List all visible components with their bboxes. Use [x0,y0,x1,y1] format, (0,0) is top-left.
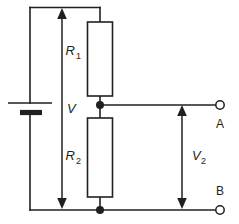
supply-voltage-arrow-head-top [57,8,67,19]
circuit-diagram-canvas: R 1 R 2 V V 2 A B [0,0,239,224]
supply-voltage-arrow-head-bottom [57,198,67,209]
terminal-b-circle [216,206,224,214]
midpoint-junction-dot [96,101,104,109]
terminal-a-label: A [216,117,224,131]
terminal-a-circle [216,101,224,109]
resistor-r2-body [88,118,113,197]
output-voltage-label-subscript: 2 [201,156,206,166]
resistor-r1-label-subscript: 1 [76,51,81,61]
bottom-junction-dot [96,206,104,214]
supply-voltage-label: V [67,101,77,116]
resistor-r2-label-subscript: 2 [76,156,81,166]
terminal-b-label: B [216,184,224,198]
resistor-r1-body [88,22,113,96]
output-voltage-arrow-head-bottom [177,198,187,209]
resistor-r2-label: R [66,148,75,163]
circuit-schematic: R 1 R 2 V V 2 A B [0,0,239,224]
output-voltage-arrow-head-top [177,105,187,116]
resistor-r1-label: R [66,43,75,58]
